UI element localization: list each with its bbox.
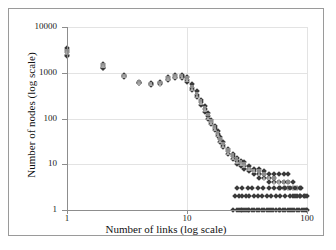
- data-point: [260, 185, 266, 191]
- data-point: [277, 180, 281, 184]
- y-tick-label: 10000: [9, 22, 57, 31]
- data-point: [206, 116, 210, 120]
- data-point: [242, 164, 246, 168]
- data-point: [231, 156, 235, 160]
- data-point: [218, 139, 222, 143]
- y-tick-label: 100: [9, 114, 57, 123]
- data-point: [122, 74, 126, 78]
- data-point: [101, 64, 105, 68]
- y-tick-label: 1000: [9, 68, 57, 77]
- data-point: [271, 185, 277, 191]
- x-axis-title: Number of links (log scale): [9, 223, 323, 235]
- x-tick-label: 100: [292, 213, 322, 223]
- x-tick-label: 1: [52, 213, 82, 223]
- y-tick: [62, 73, 67, 74]
- data-point: [252, 169, 256, 173]
- x-tick-label: 10: [172, 213, 202, 223]
- data-point: [257, 172, 261, 176]
- data-point: [262, 176, 266, 180]
- data-point: [249, 185, 255, 191]
- data-point: [180, 75, 184, 79]
- y-tick: [62, 27, 67, 28]
- data-point: [166, 77, 170, 81]
- data-point: [247, 167, 251, 171]
- data-point: [199, 101, 203, 105]
- data-point: [158, 82, 162, 86]
- data-point: [195, 94, 199, 98]
- x-gridline: [307, 27, 308, 210]
- data-point: [286, 180, 290, 184]
- y-tick-label: 1: [9, 205, 57, 214]
- y-axis-line: [67, 27, 68, 211]
- data-point: [221, 144, 225, 148]
- data-point: [203, 108, 207, 112]
- y-tick-label: 10: [9, 159, 57, 168]
- data-point: [190, 87, 194, 91]
- figure-frame: Node connectivity distribution Number of…: [8, 8, 324, 236]
- data-point: [149, 82, 153, 86]
- data-point: [213, 127, 217, 131]
- data-point: [216, 133, 220, 137]
- data-point: [209, 121, 213, 125]
- data-point: [272, 176, 276, 180]
- data-point: [282, 180, 286, 184]
- y-tick: [62, 119, 67, 120]
- plot-area: [67, 27, 307, 210]
- data-point: [226, 151, 230, 155]
- data-point: [267, 176, 271, 180]
- x-gridline: [187, 27, 188, 210]
- data-point: [185, 78, 189, 82]
- data-point: [286, 172, 292, 178]
- data-point: [173, 75, 177, 79]
- data-point: [137, 81, 141, 85]
- y-tick: [62, 164, 67, 165]
- data-point: [272, 180, 276, 184]
- plot-container: Node connectivity distribution Number of…: [9, 9, 323, 235]
